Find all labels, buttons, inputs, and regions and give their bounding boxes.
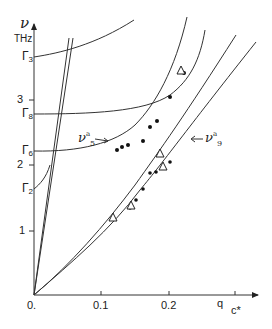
gamma3-label: Γ3 <box>22 50 33 64</box>
x-tick-label-02: 0.2 <box>161 300 176 311</box>
steep-branch-2 <box>34 38 73 295</box>
gamma3-branch <box>34 20 134 57</box>
dispersion-curves <box>34 17 256 295</box>
axes <box>29 24 258 295</box>
gamma6-label: Γ6 <box>22 144 33 158</box>
gamma8-label: Γ8 <box>22 107 33 121</box>
gamma6-branch <box>34 17 187 151</box>
x-cstar-label: c* <box>231 305 241 316</box>
nu9a-label: νa9 <box>205 131 222 148</box>
x-tick-label-01: 0.1 <box>93 300 108 311</box>
steep-branch-1 <box>34 38 69 295</box>
acoustic-lower <box>34 42 256 295</box>
y-axis-symbol: ν <box>20 16 29 31</box>
x-origin-label: 0. <box>27 300 36 311</box>
x-q-label: q <box>217 298 223 309</box>
y-axis-unit: THz <box>14 34 32 44</box>
y-tick-label-2: 2 <box>17 159 23 170</box>
measured-dots <box>115 71 186 210</box>
measured-triangles <box>109 66 185 221</box>
gamma2-label: Γ2 <box>22 182 33 196</box>
nu5a-label: νa5 <box>78 131 95 148</box>
y-tick-label-1: 1 <box>19 225 25 236</box>
gamma2-branch <box>34 165 50 189</box>
y-tick-label-3: 3 <box>17 94 23 105</box>
dispersion-chart <box>0 0 272 329</box>
